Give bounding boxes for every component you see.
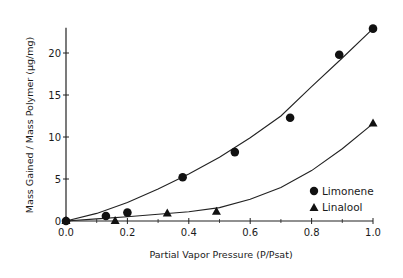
legend-marker-limonene	[310, 187, 318, 195]
x-tick-label: 0.8	[304, 227, 320, 238]
data-point-linalool	[163, 208, 172, 216]
data-point-limonene	[369, 24, 378, 33]
legend-marker-linalool	[310, 203, 319, 211]
data-point-limonene	[231, 148, 240, 157]
x-axis-title: Partial Vapor Pressure (P/Psat)	[149, 249, 292, 260]
legend-label-linalool: Linalool	[322, 201, 363, 213]
legend: Limonene Linalool	[310, 185, 374, 213]
data-point-limonene	[123, 208, 132, 217]
x-tick-label: 0.6	[242, 227, 258, 238]
data-point-limonene	[286, 113, 295, 122]
data-point-limonene	[178, 173, 187, 182]
legend-label-limonene: Limonene	[322, 185, 374, 197]
y-tick-label: 0	[55, 216, 61, 227]
x-tick-label: 1.0	[365, 227, 381, 238]
data-point-limonene	[102, 212, 111, 221]
y-tick-label: 20	[48, 48, 61, 59]
y-axis-title: Mass Gained / Mass Polymer (µg/mg)	[24, 37, 35, 213]
y-tick-label: 10	[48, 132, 61, 143]
data-point-linalool	[369, 119, 378, 127]
data-point-limonene	[335, 50, 344, 59]
x-tick-label: 0.2	[119, 227, 135, 238]
chart: 0.00.20.40.60.81.005101520 Partial Vapor…	[0, 0, 403, 278]
x-tick-label: 0.0	[58, 227, 74, 238]
y-tick-label: 15	[48, 90, 61, 101]
y-tick-label: 5	[55, 174, 61, 185]
x-tick-label: 0.4	[181, 227, 197, 238]
